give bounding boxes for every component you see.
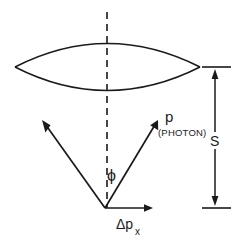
distance-s-label: S: [210, 133, 219, 149]
angle-phi-label: ϕ: [107, 167, 116, 184]
photon-qualifier-label: (PHOTON): [158, 127, 206, 138]
photon-momentum-label: p: [165, 108, 173, 125]
momentum-x-label: Δp: [116, 216, 133, 232]
physics-diagram-canvas: p (PHOTON) ϕ S Δp x: [0, 0, 235, 246]
background-plate: [0, 0, 235, 246]
figure-root: p (PHOTON) ϕ S Δp x: [0, 0, 235, 246]
momentum-x-subscript-label: x: [135, 226, 140, 237]
